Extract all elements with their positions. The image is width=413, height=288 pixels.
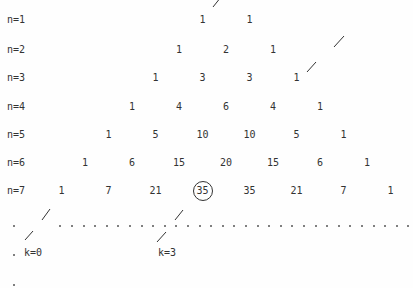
diagonal-label: k=3 bbox=[158, 247, 176, 258]
coefficient: 10 bbox=[196, 129, 208, 140]
coefficient: 1 bbox=[364, 157, 370, 168]
continuation-dot bbox=[199, 225, 201, 227]
row-label: n=3 bbox=[7, 72, 25, 83]
row-label: n=2 bbox=[7, 44, 25, 55]
coefficient: 1 bbox=[340, 129, 346, 140]
continuation-dot bbox=[13, 225, 15, 227]
coefficient: 1 bbox=[293, 72, 299, 83]
coefficient: 1 bbox=[129, 101, 135, 112]
coefficient: 7 bbox=[105, 185, 111, 196]
coefficient: 2 bbox=[223, 44, 229, 55]
continuation-dot bbox=[245, 225, 247, 227]
continuation-dot bbox=[13, 254, 15, 256]
continuation-dot bbox=[129, 225, 131, 227]
coefficient: 5 bbox=[293, 129, 299, 140]
continuation-dot bbox=[164, 225, 166, 227]
diagonal-lines bbox=[0, 0, 413, 288]
coefficient: 4 bbox=[176, 101, 182, 112]
coefficient: 1 bbox=[152, 72, 158, 83]
coefficient: 3 bbox=[246, 72, 252, 83]
coefficient: 1 bbox=[270, 44, 276, 55]
continuation-dot bbox=[361, 225, 363, 227]
coefficient: 1 bbox=[176, 44, 182, 55]
row-label: n=4 bbox=[7, 101, 25, 112]
continuation-dot bbox=[13, 284, 15, 286]
continuation-dot bbox=[315, 225, 317, 227]
coefficient: 1 bbox=[246, 14, 252, 25]
highlight-circle bbox=[193, 181, 213, 201]
row-label: n=7 bbox=[7, 185, 25, 196]
coefficient: 21 bbox=[290, 185, 302, 196]
coefficient: 6 bbox=[317, 157, 323, 168]
continuation-dot bbox=[303, 225, 305, 227]
continuation-dot bbox=[396, 225, 398, 227]
continuation-dot bbox=[257, 225, 259, 227]
coefficient: 15 bbox=[173, 157, 185, 168]
continuation-dot bbox=[106, 225, 108, 227]
coefficient: 15 bbox=[267, 157, 279, 168]
coefficient: 21 bbox=[149, 185, 161, 196]
continuation-dot bbox=[280, 225, 282, 227]
row-label: n=6 bbox=[7, 157, 25, 168]
continuation-dot bbox=[338, 225, 340, 227]
coefficient: 10 bbox=[243, 129, 255, 140]
continuation-dot bbox=[71, 225, 73, 227]
coefficient: 35 bbox=[243, 185, 255, 196]
coefficient: 1 bbox=[105, 129, 111, 140]
continuation-dot bbox=[222, 225, 224, 227]
coefficient: 1 bbox=[199, 14, 205, 25]
coefficient: 1 bbox=[58, 185, 64, 196]
pascal-triangle-diagram: n=111n=2121n=31331n=414641n=515101051n=6… bbox=[0, 0, 413, 288]
continuation-dot bbox=[83, 225, 85, 227]
row-label: n=1 bbox=[7, 14, 25, 25]
coefficient: 5 bbox=[152, 129, 158, 140]
continuation-dot bbox=[373, 225, 375, 227]
coefficient: 1 bbox=[82, 157, 88, 168]
coefficient: 7 bbox=[340, 185, 346, 196]
coefficient: 6 bbox=[223, 101, 229, 112]
coefficient: 1 bbox=[317, 101, 323, 112]
coefficient: 3 bbox=[199, 72, 205, 83]
coefficient: 6 bbox=[129, 157, 135, 168]
continuation-dot bbox=[141, 225, 143, 227]
continuation-dot bbox=[187, 225, 189, 227]
coefficient: 4 bbox=[270, 101, 276, 112]
coefficient: 20 bbox=[220, 157, 232, 168]
diagonal-label: k=0 bbox=[24, 247, 42, 258]
coefficient: 1 bbox=[387, 185, 393, 196]
row-label: n=5 bbox=[7, 129, 25, 140]
